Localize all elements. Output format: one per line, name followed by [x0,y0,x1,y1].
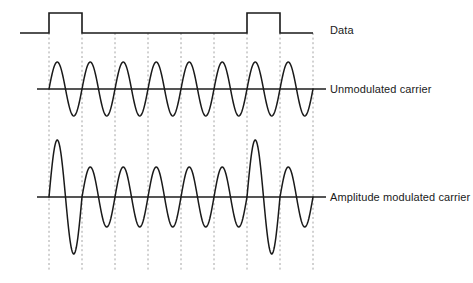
unmodulated-carrier-label: Unmodulated carrier [330,83,432,95]
waveform-canvas [0,0,473,283]
gridline-group [49,33,313,272]
data-signal-label: Data [330,24,354,36]
amplitude-modulated-carrier-label: Amplitude modulated carrier [330,191,470,203]
data-signal-trace [20,13,313,33]
am-modulation-figure: Data Unmodulated carrier Amplitude modul… [0,0,473,283]
